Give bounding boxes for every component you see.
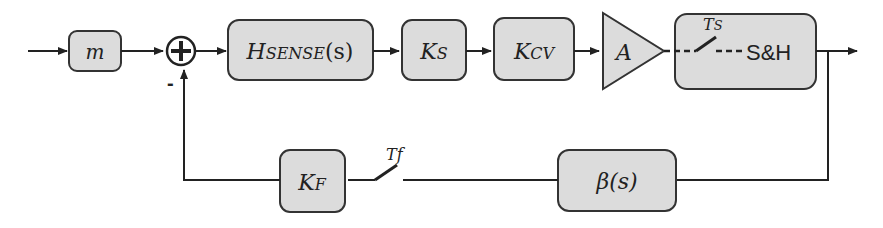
minus-sign: -: [167, 72, 174, 94]
amp-label: A: [614, 40, 632, 65]
ts-sub: S: [714, 18, 723, 33]
kf-sub: F: [314, 175, 327, 194]
tf-sub: f: [396, 145, 406, 164]
hsense-main: H: [246, 39, 267, 64]
block-ks: KS: [402, 20, 466, 80]
svg-text:TS: TS: [703, 15, 723, 34]
hsense-sub: SENSE: [266, 44, 326, 63]
feedback-wire-to-sum: [184, 70, 280, 180]
summing-junction: [167, 37, 195, 65]
tf-switch-icon: [375, 165, 397, 180]
ks-sub: S: [437, 44, 448, 63]
block-beta: β(s): [558, 150, 676, 211]
block-hsense: HSENSE(s): [228, 20, 373, 80]
block-kf: KF: [280, 150, 345, 212]
block-kcv: KCV: [494, 18, 574, 80]
svg-text:Tf: Tf: [386, 145, 406, 164]
block-diagram: m - HSENSE(s) KS KCV A: [0, 0, 883, 228]
kf-main: K: [297, 170, 316, 195]
block-sample-and-hold: TS S&H: [664, 14, 816, 89]
sh-label: S&H: [746, 40, 791, 65]
kcv-main: K: [513, 39, 532, 64]
block-m: m: [69, 31, 121, 71]
amplifier-a: A: [603, 13, 664, 89]
kcv-sub: CV: [530, 44, 555, 63]
ks-main: K: [419, 39, 438, 64]
block-m-label: m: [86, 40, 105, 64]
hsense-suffix: (s): [325, 39, 353, 64]
beta-label: β(s): [595, 169, 637, 194]
